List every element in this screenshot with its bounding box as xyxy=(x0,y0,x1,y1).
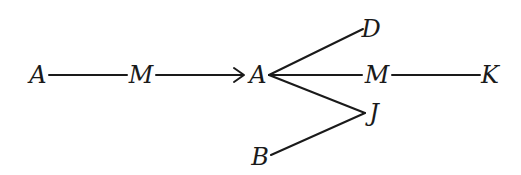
node-k: K xyxy=(481,63,499,87)
edge-b-j xyxy=(271,113,365,155)
node-m1: M xyxy=(129,63,154,87)
node-a2: A xyxy=(249,63,266,87)
node-d: D xyxy=(361,17,380,41)
edge-a2-j xyxy=(269,75,365,113)
node-b: B xyxy=(251,145,269,169)
node-m2: M xyxy=(365,63,390,87)
graph-diagram: A M A D M K J B xyxy=(0,0,521,175)
edge-a2-d xyxy=(269,29,363,75)
node-a1: A xyxy=(29,63,46,87)
node-j: J xyxy=(369,101,379,125)
